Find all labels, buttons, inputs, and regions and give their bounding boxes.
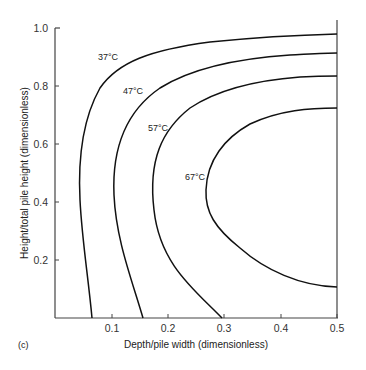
x-tick-label: 0.4 bbox=[274, 322, 289, 334]
y-tick-label: 0.6 bbox=[33, 138, 48, 150]
x-axis-label: Depth/pile width (dimensionless) bbox=[124, 339, 268, 350]
label-37c: 37°C bbox=[98, 52, 119, 62]
isotherm-47c bbox=[114, 53, 337, 318]
label-57c: 57°C bbox=[148, 123, 169, 133]
y-tick-label: 0.8 bbox=[33, 80, 48, 92]
y-tick-label: 0.4 bbox=[33, 196, 48, 208]
isotherm-67c bbox=[206, 108, 337, 287]
y-axis-label: Height/total pile height (dimensionless) bbox=[19, 87, 30, 259]
axes bbox=[55, 20, 338, 318]
label-47c: 47°C bbox=[123, 86, 144, 96]
x-tick-label: 0.1 bbox=[105, 322, 120, 334]
x-tick-label: 0.5 bbox=[330, 322, 345, 334]
y-tick-label: 0.2 bbox=[33, 254, 48, 266]
curve-labels: 37°C 47°C 57°C 67°C bbox=[98, 52, 206, 182]
y-tick-label: 1.0 bbox=[33, 22, 48, 34]
label-67c: 67°C bbox=[185, 172, 206, 182]
contour-curves bbox=[80, 34, 337, 318]
panel-label: (c) bbox=[18, 340, 29, 350]
x-ticks: 0.1 0.2 0.3 0.4 0.5 bbox=[105, 314, 345, 334]
x-tick-label: 0.3 bbox=[217, 322, 232, 334]
x-tick-label: 0.2 bbox=[161, 322, 176, 334]
contour-chart: 0.2 0.4 0.6 0.8 1.0 0.1 0.2 0.3 0.4 0.5 … bbox=[0, 0, 366, 370]
isotherm-57c bbox=[153, 76, 337, 318]
